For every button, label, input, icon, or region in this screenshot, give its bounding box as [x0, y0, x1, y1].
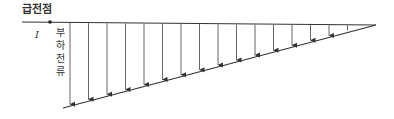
- feed-point-dot: [48, 20, 52, 24]
- load-current-arrows: [70, 23, 348, 104]
- feed-line: [22, 22, 376, 25]
- load-current-diagram: [0, 0, 394, 119]
- load-line: [63, 25, 376, 108]
